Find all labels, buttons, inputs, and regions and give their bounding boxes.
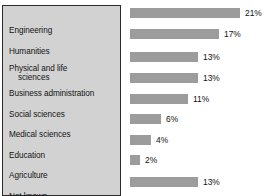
- bar-humanities: [130, 29, 219, 39]
- bar-row: 21%: [130, 8, 262, 18]
- bar-not-known: [130, 177, 198, 187]
- bar-row: 13%: [130, 52, 220, 62]
- bar-row: 4%: [130, 135, 168, 145]
- bar-row: 2%: [130, 155, 157, 165]
- bar-agriculture: [130, 155, 140, 165]
- bar-value-label: 4%: [156, 135, 168, 145]
- bar-business-administration: [130, 73, 198, 83]
- horizontal-bar-chart: Engineering Humanities Physical and life…: [0, 0, 273, 196]
- bar-row: 6%: [130, 114, 178, 124]
- bar-physical-and-life-sciences: [130, 52, 198, 62]
- bar-value-label: 13%: [203, 177, 220, 187]
- bar-value-label: 6%: [166, 114, 178, 124]
- bar-value-label: 11%: [193, 94, 209, 104]
- bar-row: 13%: [130, 73, 220, 83]
- bar-social-sciences: [130, 94, 188, 104]
- bar-education: [130, 135, 151, 145]
- bar-value-label: 13%: [203, 73, 220, 83]
- bars-area: 21% 17% 13% 13% 11% 6% 4% 2%: [0, 0, 273, 196]
- bar-row: 11%: [130, 94, 209, 104]
- bar-row: 17%: [130, 29, 241, 39]
- bar-value-label: 17%: [224, 29, 241, 39]
- bar-row: 13%: [130, 177, 220, 187]
- bar-engineering: [130, 8, 240, 18]
- bar-medical-sciences: [130, 114, 161, 124]
- bar-value-label: 21%: [245, 8, 262, 18]
- bar-value-label: 13%: [203, 52, 220, 62]
- bar-value-label: 2%: [145, 155, 157, 165]
